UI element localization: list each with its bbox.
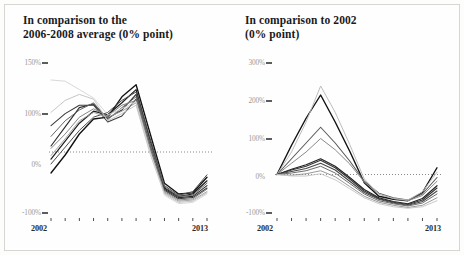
x-axis-start-label-right: 2002 — [257, 224, 273, 233]
y-tick-label-right-2: 100% — [231, 134, 265, 143]
y-tick-label-right-1: 200% — [231, 96, 265, 105]
y-tick-mark-left-3 — [42, 212, 48, 214]
plot-area-right: 300% 200% 100% 0% -100% 2002 2013 — [233, 5, 461, 252]
data-series-line — [51, 94, 207, 202]
y-tick-label-right-4: -100% — [228, 208, 265, 217]
chart-panel-left: In comparison to the2006-2008 average (0… — [5, 5, 233, 252]
line-chart-right — [233, 5, 461, 252]
y-tick-label-left-0: 150% — [7, 58, 41, 67]
y-tick-label-right-3: 0% — [231, 172, 265, 181]
chart-panel-right: In comparison to 2002(0% point) 300% 200… — [233, 5, 461, 252]
chart-frame: In comparison to the2006-2008 average (0… — [4, 4, 460, 251]
y-tick-mark-right-0 — [266, 62, 272, 64]
y-tick-mark-left-0 — [42, 62, 48, 64]
data-series-line — [51, 85, 207, 194]
data-series-line — [51, 103, 207, 201]
plot-area-left: 150% 100% 0% -100% 2002 2013 — [5, 5, 233, 252]
y-tick-mark-right-4 — [266, 212, 272, 214]
y-tick-mark-right-2 — [266, 138, 272, 140]
y-tick-label-left-1: 100% — [7, 109, 41, 118]
x-axis-end-label-left: 2013 — [192, 224, 208, 233]
y-tick-mark-right-1 — [266, 100, 272, 102]
x-axis-end-label-right: 2013 — [425, 224, 441, 233]
y-tick-mark-left-1 — [42, 113, 48, 115]
infographic-page: In comparison to the2006-2008 average (0… — [0, 0, 464, 255]
data-series-line — [51, 97, 207, 197]
data-series-line — [51, 100, 207, 200]
x-axis-start-label-left: 2002 — [31, 224, 47, 233]
y-tick-label-left-2: 0% — [7, 160, 41, 169]
y-tick-label-right-0: 300% — [231, 58, 265, 67]
y-tick-label-left-3: -100% — [5, 208, 41, 217]
